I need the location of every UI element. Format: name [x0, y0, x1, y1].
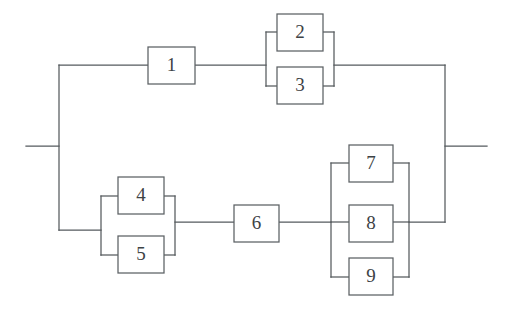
- block-9[interactable]: 9: [349, 258, 393, 295]
- block-2-label: 2: [295, 21, 305, 42]
- block-9-label: 9: [366, 265, 376, 286]
- block-3-label: 3: [295, 74, 305, 95]
- reliability-block-diagram: 1 2 3 4 5 6: [0, 0, 509, 316]
- block-7[interactable]: 7: [349, 145, 393, 182]
- block-4-label: 4: [136, 184, 146, 205]
- block-1[interactable]: 1: [148, 47, 195, 84]
- block-5[interactable]: 5: [118, 236, 164, 273]
- block-8[interactable]: 8: [349, 205, 393, 242]
- block-6[interactable]: 6: [234, 205, 279, 242]
- block-6-label: 6: [252, 212, 262, 233]
- block-5-label: 5: [136, 243, 146, 264]
- block-8-label: 8: [366, 212, 376, 233]
- block-1-label: 1: [167, 54, 177, 75]
- block-2[interactable]: 2: [277, 14, 323, 51]
- block-layer: 1 2 3 4 5 6: [118, 14, 393, 295]
- block-7-label: 7: [366, 152, 376, 173]
- block-4[interactable]: 4: [118, 177, 164, 214]
- diagram-canvas: 1 2 3 4 5 6: [0, 0, 509, 316]
- block-3[interactable]: 3: [277, 67, 323, 104]
